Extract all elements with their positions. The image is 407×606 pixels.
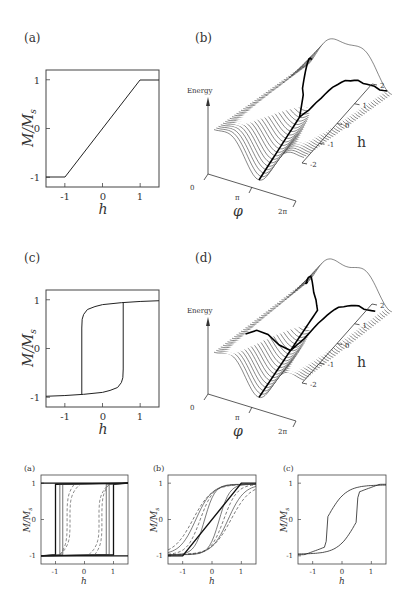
h-tick-label: 2 [380, 82, 384, 90]
axis-tick [249, 407, 252, 413]
panel-label: (a) [24, 31, 41, 45]
panel-label: (d) [195, 251, 212, 265]
ytick-label: -1 [29, 552, 36, 560]
panel-label: (b) [195, 31, 212, 45]
h-tick-label: 0 [345, 342, 349, 350]
panel-top-a: (a) 1 0 -1 -1 0 1 h M/Ms [20, 31, 159, 217]
panel-bot-c: (c) 1 0 -1 -1 0 1 h M/Ms [279, 464, 386, 586]
panel-label: (c) [24, 251, 40, 265]
phi-tick-label: 2π [278, 428, 287, 436]
h-tick-label: 1 [363, 322, 367, 330]
energy-zero-label: 0 [190, 184, 194, 192]
hysteresis-loop [298, 484, 386, 554]
xtick-label: 1 [111, 568, 115, 576]
loop-solid [41, 483, 128, 556]
phi-tick-label: π [235, 194, 240, 202]
xtick-label: 0 [82, 568, 86, 576]
panel-label: (c) [283, 464, 294, 473]
hysteresis-loops [168, 483, 256, 564]
xtick-label: -1 [180, 568, 187, 576]
energy-zero-label: 0 [190, 404, 194, 412]
ytick-label: 1 [32, 480, 36, 488]
arrow-up-icon [206, 317, 210, 326]
x-axis-label: h [98, 421, 107, 437]
h-tick-label: -2 [310, 381, 317, 389]
ytick-label: -1 [286, 552, 293, 560]
panel-mid-c: (c) 1 0 -1 -1 0 1 h M/Ms [20, 251, 159, 437]
axis-tick [204, 174, 208, 180]
x-axis-label: h [98, 201, 107, 217]
ytick-label: 1 [159, 480, 163, 488]
axis-ticks [46, 80, 140, 187]
xtick-label: -1 [310, 568, 317, 576]
panel-bot-a: (a) 1 0 -1 -1 0 1 h M/Ms [22, 464, 128, 586]
axis-tick [293, 201, 296, 207]
h-tick-label: -1 [328, 361, 335, 369]
svg-text:M/Ms: M/Ms [149, 508, 160, 534]
xtick-label: 1 [369, 568, 373, 576]
ytick-label: 0 [32, 516, 36, 524]
axis-tick [293, 421, 296, 427]
magnetization-curve [46, 80, 159, 177]
ytick-label: -1 [30, 172, 40, 183]
y-axis-label: M/Ms [22, 508, 33, 534]
loop-solid [41, 483, 128, 556]
ytick-label: 0 [159, 516, 163, 524]
figure-canvas: (a) 1 0 -1 -1 0 1 h M/Ms (b) Energy 0 π … [0, 0, 407, 606]
x-axis-label: h [209, 576, 215, 586]
hysteresis-loop [46, 301, 159, 397]
hysteresis-loops [41, 483, 128, 564]
h-tick [320, 363, 325, 364]
panel-mid-d: (d) Energy 0 π 2π φ -2-1012 h [187, 251, 392, 439]
phi-axis-label: φ [233, 423, 243, 439]
hysteresis-loop [298, 483, 386, 564]
svg-text:M/Ms: M/Ms [279, 508, 290, 534]
plot-frame [298, 475, 386, 564]
xtick-label: 1 [137, 411, 143, 422]
xtick-label: 1 [137, 191, 143, 202]
svg-text:M/Ms: M/Ms [22, 508, 33, 534]
y-axis-label: M/Ms [279, 508, 290, 534]
xtick-label: -1 [60, 411, 70, 422]
ytick-label: -1 [30, 392, 40, 403]
phi-axis-label: φ [233, 203, 243, 219]
h-tick-label: 2 [380, 302, 384, 310]
axis-tick [249, 187, 252, 193]
h-tick-label: 0 [345, 122, 349, 130]
h-tick [302, 163, 307, 164]
x-axis-label: h [81, 576, 87, 586]
svg-text:M/Ms: M/Ms [20, 109, 38, 148]
phi-tick-label: π [235, 414, 240, 422]
h-axis-label: h [357, 354, 366, 370]
h-tick-label: -2 [310, 161, 317, 169]
h-tick-label: -1 [328, 141, 335, 149]
energy-axis-label: Energy [187, 307, 213, 315]
y-axis-label: M/Ms [20, 329, 38, 368]
x-axis-label: h [339, 576, 345, 586]
axis-tick [204, 394, 208, 400]
plot-frame [41, 475, 128, 564]
xtick-label: 0 [210, 568, 214, 576]
h-tick [302, 383, 307, 384]
axis-ticks [46, 300, 140, 407]
phi-tick-label: 2π [278, 208, 287, 216]
loop-dashed [60, 484, 109, 554]
panel-label: (a) [24, 464, 35, 473]
ytick-label: 0 [289, 516, 293, 524]
ytick-label: 1 [34, 75, 40, 86]
loop-solid [41, 483, 128, 556]
energy-axis-label: Energy [187, 87, 213, 95]
y-axis-label: M/Ms [149, 508, 160, 534]
y-axis-label: M/Ms [20, 109, 38, 148]
plot-frame [46, 290, 159, 407]
ytick-label: -1 [156, 552, 163, 560]
panel-label: (b) [153, 464, 164, 473]
xtick-label: 0 [340, 568, 344, 576]
xtick-label: -1 [52, 568, 59, 576]
svg-text:M/Ms: M/Ms [20, 329, 38, 368]
h-axis-label: h [357, 134, 366, 150]
xtick-label: -1 [60, 191, 70, 202]
panel-bot-b: (b) 1 0 -1 -1 0 1 h M/Ms [149, 464, 256, 586]
h-tick-label: 1 [363, 102, 367, 110]
xtick-label: 1 [239, 568, 243, 576]
